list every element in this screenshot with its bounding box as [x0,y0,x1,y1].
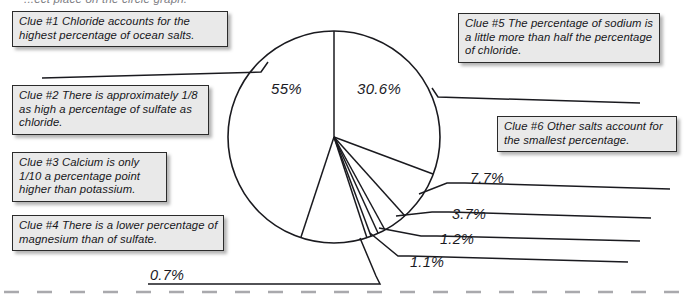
clue-box-5: Clue #5 The percentage of sodium is a li… [458,13,660,63]
leader-line-clue-5 [432,88,640,103]
leader-line-77 [419,183,670,194]
pie-label-55: 55% [271,80,302,97]
slice-divider-77 [334,137,405,216]
pie-label-3-7: 3.7% [452,206,486,222]
clue-box-4: Clue #4 There is a lower percentage of m… [12,215,224,251]
clue-box-6: Clue #6 Other salts account for the smal… [497,116,677,152]
clue-box-1: Clue #1 Chloride accounts for the highes… [12,11,228,47]
leader-line-clue-1 [42,62,268,78]
pie-label-7-7: 7.7% [470,170,504,186]
clue-box-3: Clue #3 Calcium is only 1/10 a percentag… [12,152,167,202]
pie-label-1-1: 1.1% [410,254,444,270]
worksheet-page: ...ect place on the circle graph. [0,0,688,297]
leader-line-37 [396,212,651,218]
pie-label-1-2: 1.2% [440,231,474,247]
pie-label-0-7: 0.7% [150,267,184,283]
clue-box-2: Clue #2 There is approximately 1/8 as hi… [12,85,209,135]
pie-label-30-6: 30.6% [357,80,401,97]
slice-divider-55 [301,137,334,237]
leader-line-12 [379,228,640,241]
